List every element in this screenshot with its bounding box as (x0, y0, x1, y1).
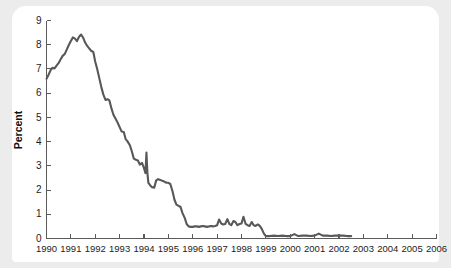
x-tick-label: 1998 (231, 243, 252, 254)
x-tick-label: 2004 (377, 243, 398, 254)
x-tick-label: 1990 (36, 243, 57, 254)
x-tick-label: 1994 (133, 243, 154, 254)
series-line-percent (47, 35, 352, 237)
y-tick-label: 1 (36, 208, 42, 219)
plot-area (47, 35, 352, 237)
x-tick-label: 2006 (426, 243, 447, 254)
x-tick-label: 1997 (207, 243, 228, 254)
x-tick-label: 1996 (182, 243, 203, 254)
y-tick-label: 9 (36, 15, 42, 26)
y-tick-label: 8 (36, 39, 42, 50)
x-tick-label: 1995 (158, 243, 179, 254)
y-tick-label: 5 (36, 112, 42, 123)
axes (47, 21, 437, 239)
x-tick-label: 1993 (109, 243, 130, 254)
y-tick-label: 7 (36, 63, 42, 74)
x-tick-label: 2002 (328, 243, 349, 254)
x-tick-label: 2001 (304, 243, 325, 254)
y-axis-ticks: 0123456789 (36, 15, 51, 244)
y-tick-label: 2 (36, 184, 42, 195)
y-tick-label: 6 (36, 87, 42, 98)
x-tick-label: 1999 (255, 243, 276, 254)
y-tick-label: 4 (36, 136, 42, 147)
y-tick-label: 3 (36, 160, 42, 171)
y-axis-title: Percent (12, 110, 24, 149)
x-tick-label: 2003 (353, 243, 374, 254)
x-tick-label: 2000 (280, 243, 301, 254)
x-tick-label: 1991 (60, 243, 81, 254)
x-tick-label: 2005 (402, 243, 423, 254)
chart-container: 0123456789 19901991199219931994199519961… (0, 0, 451, 268)
axis-frame (47, 21, 437, 239)
x-axis-ticks: 1990199119921993199419951996199719981999… (36, 234, 447, 254)
x-tick-label: 1992 (85, 243, 106, 254)
line-chart: 0123456789 19901991199219931994199519961… (0, 0, 451, 268)
